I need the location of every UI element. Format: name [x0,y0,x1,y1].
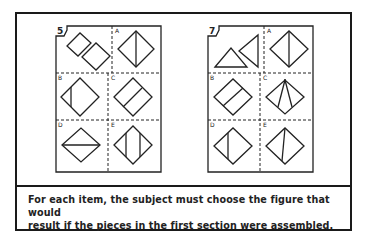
caption-line-2: result if the pieces in the first sectio… [28,219,348,232]
item-7-option-d: D [210,121,215,128]
item-5-option-a: A [115,27,120,34]
item-5-option-b: B [58,74,62,81]
item-5-option-c: C [111,74,115,81]
item-7-option-a: A [267,27,272,34]
item-5-number: 5 [57,26,63,36]
item-7-panel [208,26,313,172]
item-7-option-e: E [263,121,267,128]
item-5-option-e: E [111,121,115,128]
caption-line-1: For each item, the subject must choose t… [28,193,348,219]
caption: For each item, the subject must choose t… [28,193,348,232]
item-7-option-b: B [210,74,214,81]
item-7-option-c: C [263,74,267,81]
item-7-number: 7 [209,26,215,36]
item-5-option-d: D [58,121,63,128]
item-5-panel [56,26,161,172]
